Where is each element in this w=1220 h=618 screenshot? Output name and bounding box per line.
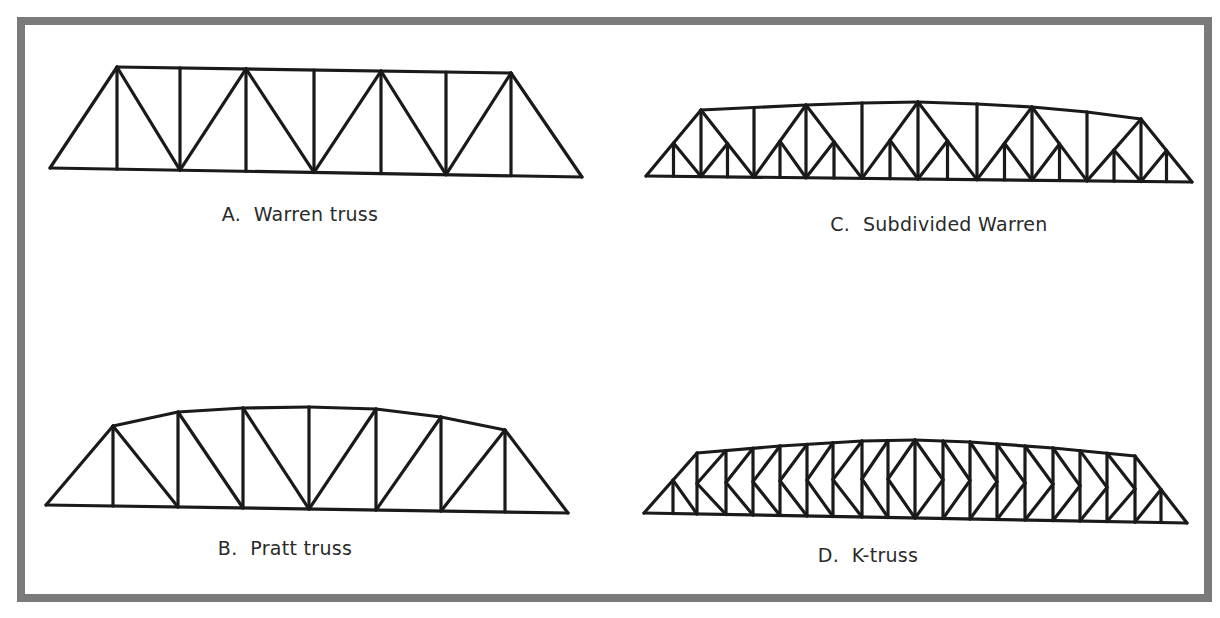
pratt-truss-drawing (46, 407, 568, 513)
caption-warren-truss: A. Warren truss (222, 203, 379, 225)
caption-k-truss: D. K-truss (818, 544, 918, 566)
subdivided-warren-truss-drawing (646, 102, 1192, 182)
truss-diagrams (0, 0, 1220, 618)
caption-subdivided-warren: C. Subdivided Warren (830, 213, 1047, 235)
k-truss-drawing (644, 440, 1187, 523)
caption-pratt-truss: B. Pratt truss (218, 537, 352, 559)
warren-truss-drawing (50, 67, 582, 177)
